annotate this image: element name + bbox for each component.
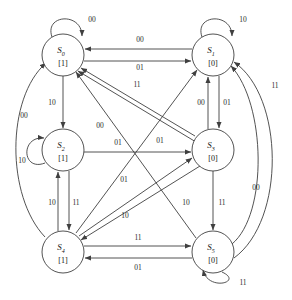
edge-label-s4-s0-00: 00 xyxy=(20,111,28,120)
edge-label-s1-s0-00: 00 xyxy=(136,35,144,44)
edge-s4-s0-arc xyxy=(16,63,46,237)
state-output-s3: [0] xyxy=(208,154,218,163)
edge-label-s2-s2-10: 10 xyxy=(18,156,26,165)
edge-label-s4-s1-01: 01 xyxy=(120,175,128,184)
edge-label-s5-s1-11: 11 xyxy=(271,81,278,90)
edge-label-s5-s0-10: 10 xyxy=(121,211,129,220)
fsm-canvas: S0 [1] S1 [0] S2 [1] S3 [0] S4 [1] S5 [0… xyxy=(0,0,292,300)
edge-s4-s3 xyxy=(79,158,192,236)
edge-label-s0-s1-01: 01 xyxy=(136,63,144,72)
state-output-s2: [1] xyxy=(58,154,68,163)
edge-label-s2-s0-00: 00 xyxy=(96,121,104,130)
state-output-s0: [1] xyxy=(58,59,68,68)
state-diagram: S0 [1] S1 [0] S2 [1] S3 [0] S4 [1] S5 [0… xyxy=(0,0,292,300)
edge-label-s0-s0-00: 00 xyxy=(88,15,96,24)
edge-s5-s0 xyxy=(76,72,196,238)
edge-label-s1-s1-10: 10 xyxy=(239,15,247,24)
edge-label-s2-s3-01: 01 xyxy=(114,138,122,147)
edge-label-s4-s2-10: 10 xyxy=(48,198,56,207)
state-output-s5: [0] xyxy=(208,256,218,265)
edge-label-s1-s3-01: 01 xyxy=(223,98,231,107)
state-output-s4: [1] xyxy=(58,256,68,265)
edge-label-s5-s5-11: 11 xyxy=(239,278,246,287)
edge-label-s4-s5-11: 11 xyxy=(134,233,141,242)
state-output-s1: [0] xyxy=(208,59,218,68)
edge-s4-s1 xyxy=(76,70,197,233)
edge-label-s5-s4-01: 01 xyxy=(134,263,142,272)
edge-s5-s1-arc-outer xyxy=(234,62,272,258)
edge-label-s0-s2-10: 10 xyxy=(48,98,56,107)
edge-label-s2-s4-11: 11 xyxy=(72,198,79,207)
edge-label-s3-s4-10: 10 xyxy=(182,198,190,207)
edge-label-s3-s5-11: 11 xyxy=(218,198,225,207)
edge-s5-s1-arc-inner xyxy=(231,66,258,244)
edge-label-s3-s0-11: 11 xyxy=(133,80,140,89)
edge-label-s4-s3-01: 01 xyxy=(156,136,164,145)
edge-label-s5-s1-00: 00 xyxy=(252,183,260,192)
edge-label-s3-s1-00: 00 xyxy=(197,98,205,107)
